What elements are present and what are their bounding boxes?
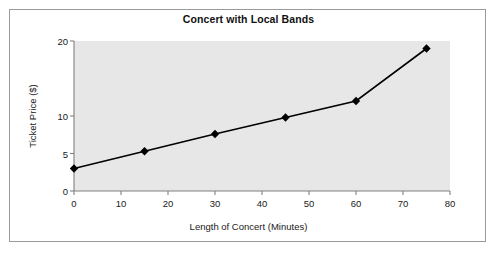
chart-figure: Concert with Local Bands Ticket Price ($…: [0, 0, 497, 254]
x-tick-label: 80: [445, 198, 456, 209]
x-axis-ticks: [74, 191, 450, 195]
x-tick-label: 60: [351, 198, 362, 209]
y-tick-label: 5: [40, 148, 68, 159]
y-tick-label: 0: [40, 186, 68, 197]
x-tick-label: 20: [163, 198, 174, 209]
plot-background: [74, 41, 450, 191]
x-tick-label: 50: [304, 198, 315, 209]
x-tick-label: 0: [71, 198, 76, 209]
x-tick-label: 30: [210, 198, 221, 209]
x-tick-label: 70: [398, 198, 409, 209]
x-tick-label: 10: [116, 198, 127, 209]
y-tick-label: 10: [40, 111, 68, 122]
x-tick-label: 40: [257, 198, 268, 209]
y-tick-label: 20: [40, 36, 68, 47]
plot-area: [0, 0, 497, 254]
